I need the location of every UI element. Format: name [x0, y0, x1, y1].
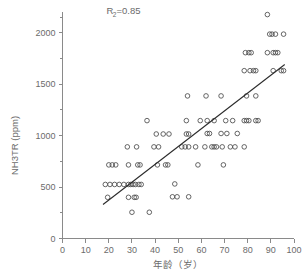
data-point — [117, 182, 122, 187]
x-tick-label: 40 — [150, 245, 160, 255]
x-tick-label: 70 — [220, 245, 230, 255]
data-point — [265, 12, 270, 17]
data-point — [108, 182, 113, 187]
x-tick-label: 60 — [196, 245, 206, 255]
data-point — [204, 94, 209, 99]
y-tick-label: 1500 — [35, 79, 55, 89]
data-point — [126, 163, 131, 168]
data-point — [203, 145, 208, 150]
data-point — [112, 182, 117, 187]
data-point — [170, 195, 175, 200]
data-point — [134, 145, 139, 150]
data-point — [242, 68, 247, 73]
data-point — [184, 118, 189, 123]
data-point — [175, 195, 180, 200]
y-tick-label: 0 — [50, 234, 55, 244]
axes-group — [63, 12, 295, 239]
data-point — [220, 145, 225, 150]
data-point — [242, 145, 247, 150]
data-point — [172, 182, 177, 187]
data-point — [130, 210, 135, 215]
data-point — [233, 145, 238, 150]
x-tick-label: 10 — [81, 245, 91, 255]
data-point — [219, 94, 224, 99]
x-axis-title: 年龄（岁） — [153, 259, 203, 270]
correlation-annotation-value: =0.85 — [116, 5, 140, 16]
data-point — [126, 195, 131, 200]
y-axis-title: NH3TR (ppm) — [9, 116, 20, 175]
data-point — [225, 131, 230, 136]
x-tick-label: 30 — [127, 245, 137, 255]
data-point — [230, 118, 235, 123]
x-tick-label: 0 — [60, 245, 65, 255]
x-tick-label: 20 — [104, 245, 114, 255]
y-tick-label: 1000 — [35, 131, 55, 141]
data-point — [152, 145, 157, 150]
data-point — [113, 163, 118, 168]
data-point — [205, 118, 210, 123]
data-point — [125, 145, 130, 150]
data-point — [193, 145, 198, 150]
data-point — [122, 182, 127, 187]
data-points-group — [103, 12, 286, 214]
chart-figure: 0500100015002000 0102030405060708090100 … — [0, 0, 303, 276]
x-axis-tick-labels: 0102030405060708090100 — [60, 245, 302, 255]
data-point — [221, 163, 226, 168]
data-point — [254, 94, 259, 99]
y-axis-ticks — [59, 33, 63, 239]
data-point — [145, 118, 150, 123]
data-point — [186, 195, 191, 200]
data-point — [281, 32, 286, 37]
y-tick-label: 2000 — [35, 28, 55, 38]
data-point — [156, 145, 161, 150]
data-point — [167, 132, 172, 137]
data-point — [273, 32, 278, 37]
data-point — [161, 132, 166, 137]
data-point — [223, 118, 228, 123]
x-tick-label: 100 — [286, 245, 301, 255]
data-point — [198, 118, 203, 123]
data-point — [265, 50, 270, 55]
data-point — [228, 145, 233, 150]
x-tick-label: 90 — [266, 245, 276, 255]
data-point — [103, 182, 108, 187]
x-axis-ticks — [63, 239, 295, 243]
scatter-plot-canvas: 0500100015002000 0102030405060708090100 … — [0, 0, 303, 276]
data-point — [186, 145, 191, 150]
x-tick-label: 50 — [173, 245, 183, 255]
data-point — [154, 132, 159, 137]
y-tick-label: 500 — [40, 182, 55, 192]
data-point — [235, 131, 240, 136]
data-point — [219, 131, 224, 136]
data-point — [147, 210, 152, 215]
y-axis-tick-labels: 0500100015002000 — [35, 28, 55, 244]
data-point — [196, 163, 201, 168]
x-tick-label: 80 — [243, 245, 253, 255]
data-point — [185, 94, 190, 99]
data-point — [105, 195, 110, 200]
regression-line — [103, 65, 285, 205]
